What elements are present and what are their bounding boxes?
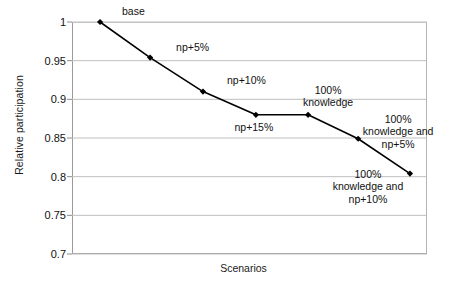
- data-series-line: [100, 22, 410, 174]
- chart-container: Relative participation 10.950.90.850.80.…: [0, 0, 457, 290]
- data-point-markers: [97, 19, 413, 177]
- data-point-marker: [253, 112, 259, 118]
- gridlines: [72, 22, 427, 254]
- data-point-marker: [305, 112, 311, 118]
- chart-svg: [0, 0, 457, 290]
- y-axis-ticks: [67, 22, 72, 254]
- x-axis-title: Scenarios: [60, 262, 427, 274]
